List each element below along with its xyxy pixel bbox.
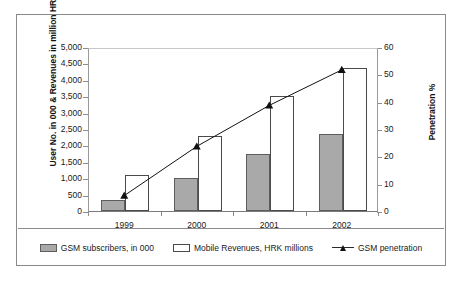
legend-swatch-gsm-penetration [332,244,354,252]
y-axis-secondary-title: Penetration % [427,52,437,172]
triangle-marker-icon[interactable]: GSM penetration 2002: 52% [338,66,346,73]
y-tick-label-primary: 2,000 [38,141,82,150]
y-tick-label-primary: 5,000 [38,43,82,52]
y-tick-label-primary: 500 [38,191,82,200]
legend-label-gsm-subscribers: GSM subscribers, in 000 [61,243,154,253]
triangle-marker-icon[interactable]: GSM penetration 1999: 6% [120,192,128,199]
y-tick-label-primary: 3,000 [38,109,82,118]
legend-label-mobile-revenues: Mobile Revenues, HRK millions [194,243,313,253]
legend-item-gsm-penetration[interactable]: GSM penetration [332,243,422,253]
y-tick-label-secondary: 50 [384,70,410,79]
legend-swatch-gsm-subscribers [40,244,57,252]
chart-frame: User No. in 000 & Revenues in million HR… [16,14,446,266]
x-tick-mark [233,212,234,216]
legend-item-mobile-revenues[interactable]: Mobile Revenues, HRK millions [173,243,313,253]
y-tick-label-primary: 0 [38,207,82,216]
y-tick-label-primary: 1,500 [38,158,82,167]
triangle-marker-icon[interactable]: GSM penetration 2001: 39% [265,101,273,108]
triangle-marker-icon [340,245,346,251]
penetration-line-path [124,70,342,196]
y-tick-label-secondary: 40 [384,98,410,107]
y-tick-label-primary: 3,500 [38,92,82,101]
y-tick-label-secondary: 0 [384,207,410,216]
y-tick-label-primary: 2,500 [38,125,82,134]
x-tick-mark [306,212,307,216]
x-tick-mark [161,212,162,216]
y-tick-label-primary: 4,500 [38,59,82,68]
y-tick-label-secondary: 20 [384,152,410,161]
y-tick-label-secondary: 10 [384,180,410,189]
y-tick-label-primary: 4,000 [38,76,82,85]
legend-item-gsm-subscribers[interactable]: GSM subscribers, in 000 [40,243,154,253]
penetration-line-series: GSM penetration 1999: 6%GSM penetration … [88,48,378,212]
triangle-marker-icon[interactable]: GSM penetration 2000: 24% [193,142,201,149]
legend-label-gsm-penetration: GSM penetration [358,243,422,253]
chart-legend: GSM subscribers, in 000 Mobile Revenues,… [18,228,444,266]
y-tick-label-primary: 1,000 [38,174,82,183]
x-tick-mark [88,212,89,216]
y-tick-label-secondary: 60 [384,43,410,52]
x-tick-mark [378,212,379,216]
legend-swatch-mobile-revenues [173,244,190,252]
y-tick-label-secondary: 30 [384,125,410,134]
